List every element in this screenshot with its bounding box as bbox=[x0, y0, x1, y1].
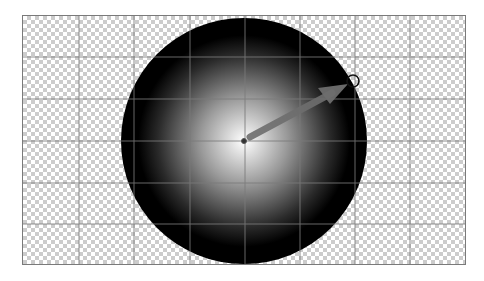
gradient-origin-handle[interactable] bbox=[242, 139, 247, 144]
